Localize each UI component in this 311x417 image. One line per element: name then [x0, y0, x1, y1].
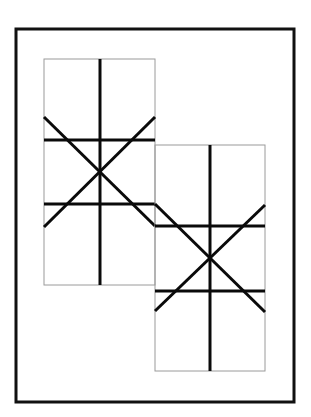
panel-lower-right — [155, 145, 265, 371]
diagram-canvas — [0, 0, 311, 417]
panel-upper-left — [44, 59, 155, 285]
